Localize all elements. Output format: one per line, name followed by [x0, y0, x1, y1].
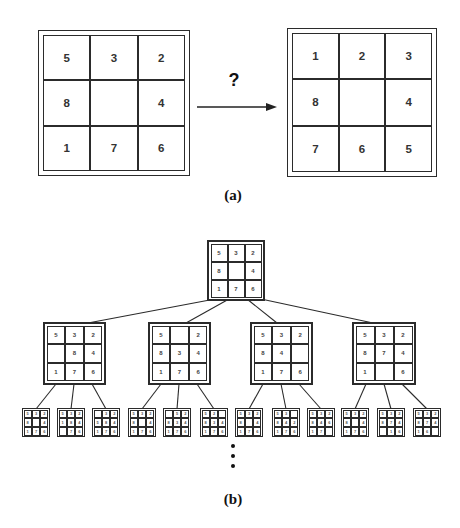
- tile-6: 6: [218, 427, 226, 436]
- tile-5: 5: [47, 326, 66, 345]
- tile-2: 2: [181, 410, 189, 419]
- tree-edge: [247, 299, 277, 323]
- blank-tile: [90, 80, 137, 125]
- tile-4: 4: [253, 418, 261, 427]
- tile-3: 3: [170, 344, 189, 363]
- tile-8: 8: [43, 80, 90, 125]
- tile-4: 4: [272, 344, 291, 363]
- tile-8: 8: [292, 79, 339, 125]
- tile-5: 5: [385, 126, 432, 172]
- tile-6: 6: [359, 427, 367, 436]
- tile-2: 2: [75, 410, 83, 419]
- tile-1: 1: [59, 418, 67, 427]
- tile-2: 2: [359, 410, 367, 419]
- tile-1: 1: [254, 363, 273, 382]
- level3-grid-8: 53842176: [274, 410, 299, 436]
- tree-edge: [384, 384, 391, 409]
- tile-3: 3: [423, 410, 431, 419]
- goal-state-grid: 12384765: [292, 33, 432, 172]
- blank-tile: [170, 326, 189, 345]
- tile-5: 5: [211, 244, 228, 262]
- tree-edge: [88, 299, 215, 323]
- blank-tile: [228, 262, 245, 280]
- tile-7: 7: [282, 427, 290, 436]
- level3-node-3: 32584176: [92, 408, 120, 437]
- tile-7: 7: [67, 427, 75, 436]
- tile-5: 5: [59, 410, 67, 419]
- tile-8: 8: [415, 418, 423, 427]
- tile-1: 1: [130, 427, 138, 436]
- tile-5: 5: [343, 410, 351, 419]
- level3-grid-6: 52834176: [202, 410, 227, 436]
- tile-6: 6: [423, 427, 431, 436]
- tile-3: 3: [387, 410, 395, 419]
- level3-node-12: 53287416: [413, 408, 441, 437]
- tile-7: 7: [210, 427, 218, 436]
- tile-2: 2: [40, 410, 48, 419]
- blank-tile: [379, 427, 387, 436]
- tree-edge: [261, 299, 373, 323]
- blank-tile: [218, 410, 226, 419]
- tile-8: 8: [202, 418, 210, 427]
- tile-1: 1: [356, 363, 375, 382]
- tile-6: 6: [245, 280, 262, 298]
- tree-edge: [36, 384, 56, 409]
- tile-7: 7: [272, 363, 291, 382]
- tile-4: 4: [282, 418, 290, 427]
- tile-2: 2: [431, 410, 439, 419]
- tile-8: 8: [254, 344, 273, 363]
- tree-edge: [299, 384, 321, 409]
- tile-4: 4: [181, 418, 189, 427]
- tile-3: 3: [90, 35, 137, 80]
- tile-2: 2: [210, 410, 218, 419]
- tile-2: 2: [339, 33, 386, 79]
- blank-tile: [351, 418, 359, 427]
- level3-grid-4: 53284176: [130, 410, 155, 436]
- tile-6: 6: [75, 427, 83, 436]
- tile-5: 5: [356, 326, 375, 345]
- level2-grid-2: 52834176: [152, 326, 208, 382]
- arrowhead-icon: [266, 103, 277, 111]
- start-state-grid: 53284176: [43, 35, 185, 171]
- level3-node-10: 53284176: [341, 408, 369, 437]
- tile-4: 4: [84, 344, 103, 363]
- tile-8: 8: [237, 418, 245, 427]
- tile-7: 7: [170, 363, 189, 382]
- tile-7: 7: [423, 418, 431, 427]
- tile-7: 7: [32, 427, 40, 436]
- blank-tile: [245, 418, 253, 427]
- level3-node-11: 53287416: [377, 408, 405, 437]
- tile-3: 3: [210, 418, 218, 427]
- tile-7: 7: [65, 363, 84, 382]
- tile-5: 5: [202, 410, 210, 419]
- tile-3: 3: [102, 410, 110, 419]
- tile-3: 3: [228, 244, 245, 262]
- level2-node-1: 53284176: [43, 322, 106, 385]
- tile-1: 1: [165, 427, 173, 436]
- tile-8: 8: [379, 418, 387, 427]
- tile-4: 4: [138, 80, 185, 125]
- ellipsis-dot: [231, 464, 235, 468]
- tree-edge: [355, 384, 366, 409]
- level3-grid-11: 53287416: [379, 410, 404, 436]
- tile-2: 2: [394, 326, 413, 345]
- tile-1: 1: [47, 363, 66, 382]
- tile-1: 1: [211, 280, 228, 298]
- tile-1: 1: [309, 427, 317, 436]
- tile-1: 1: [202, 427, 210, 436]
- tree-root-node: 53284176: [207, 240, 265, 301]
- tile-3: 3: [32, 410, 40, 419]
- tile-6: 6: [253, 427, 261, 436]
- tile-5: 5: [130, 410, 138, 419]
- blank-tile: [375, 363, 394, 382]
- tile-6: 6: [40, 427, 48, 436]
- level3-grid-7: 53284176: [237, 410, 262, 436]
- tile-2: 2: [291, 326, 310, 345]
- level3-node-1: 53284176: [22, 408, 50, 437]
- tile-6: 6: [84, 363, 103, 382]
- tile-5: 5: [24, 410, 32, 419]
- tile-8: 8: [65, 344, 84, 363]
- tile-8: 8: [211, 262, 228, 280]
- tile-8: 8: [165, 418, 173, 427]
- tile-6: 6: [325, 418, 333, 427]
